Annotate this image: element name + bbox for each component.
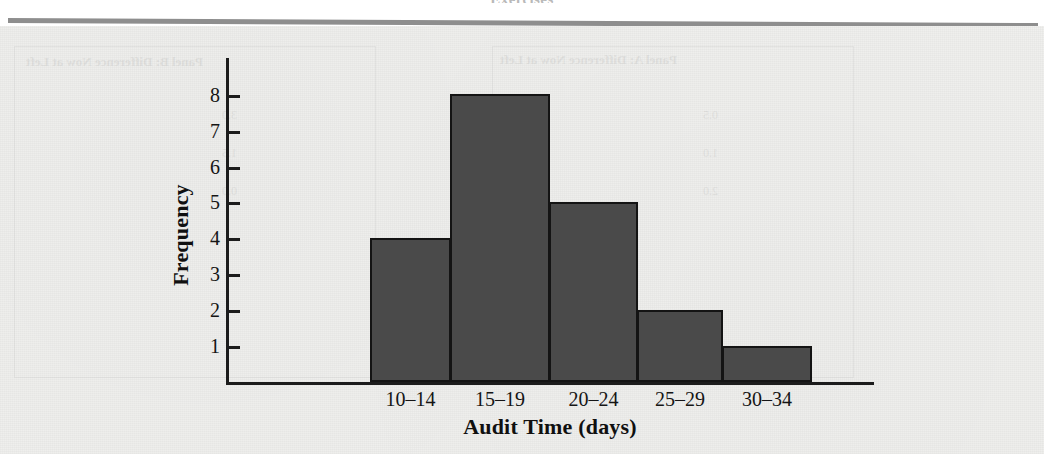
scanned-figure-page: Exercises Panel B: Difference Now at Lef… xyxy=(0,0,1044,454)
bar-25-29 xyxy=(637,310,723,382)
bar-20-24 xyxy=(549,202,638,382)
y-tick-4 xyxy=(229,238,240,241)
y-tick-label-7: 7 xyxy=(196,121,220,141)
y-tick-7 xyxy=(229,131,240,134)
y-tick-label-3: 3 xyxy=(196,264,220,284)
y-tick-label-5: 5 xyxy=(196,192,220,212)
x-axis-line xyxy=(226,382,874,385)
x-tick-label-15-19: 15–19 xyxy=(450,388,550,410)
y-tick-1 xyxy=(229,346,240,349)
x-tick-label-25-29: 25–29 xyxy=(630,388,730,410)
x-tick-label-10-14: 10–14 xyxy=(360,388,461,410)
x-axis-title: Audit Time (days) xyxy=(226,414,874,440)
y-tick-label-2: 2 xyxy=(196,300,220,320)
y-tick-label-6: 6 xyxy=(196,157,220,177)
y-axis-line xyxy=(226,58,229,385)
bar-30-34 xyxy=(722,346,812,382)
y-tick-label-1: 1 xyxy=(196,336,220,356)
x-tick-label-20-24: 20–24 xyxy=(543,388,644,410)
bar-10-14 xyxy=(370,238,451,382)
y-axis-title: Frequency xyxy=(168,155,194,315)
y-tick-label-8: 8 xyxy=(196,85,220,105)
y-tick-2 xyxy=(229,310,240,313)
x-tick-label-30-34: 30–34 xyxy=(717,388,817,410)
y-tick-8 xyxy=(229,95,240,98)
y-tick-3 xyxy=(229,274,240,277)
histogram-chart: 8 7 6 5 4 3 2 1 Frequency 10–14 15–19 20… xyxy=(0,0,1044,454)
y-tick-5 xyxy=(229,202,240,205)
y-tick-6 xyxy=(229,167,240,170)
y-tick-label-4: 4 xyxy=(196,228,220,248)
bar-15-19 xyxy=(450,94,550,382)
